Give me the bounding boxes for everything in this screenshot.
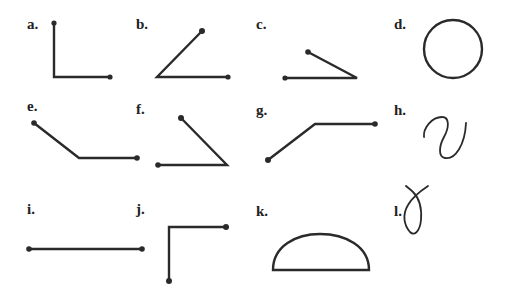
shape-a-right-angle: [51, 20, 112, 79]
label-g: g.: [256, 102, 268, 118]
shape-g-obtuse-angle: [265, 121, 378, 163]
label-i: i.: [27, 201, 35, 217]
shape-e-obtuse-angle: [31, 120, 140, 161]
label-b: b.: [136, 16, 148, 32]
label-e: e.: [27, 98, 38, 114]
label-j: j.: [135, 201, 145, 217]
shape-j-right-angle: [166, 224, 229, 284]
shapes-figure: a. b. c. d. e. f. g. h. i. j. k. l.: [0, 0, 506, 301]
shape-h-s-curve: [424, 117, 466, 158]
label-l: l.: [394, 203, 402, 219]
label-f: f.: [136, 101, 145, 117]
shape-i-straight-line: [26, 246, 145, 252]
label-c: c.: [256, 16, 267, 32]
label-h: h.: [394, 102, 406, 118]
shape-c-narrow-angle: [282, 49, 357, 80]
shape-d-circle: [424, 20, 482, 78]
shape-l-loop: [404, 186, 428, 234]
label-d: d.: [394, 16, 406, 32]
shape-b-acute-angle: [157, 28, 231, 80]
label-k: k.: [256, 203, 268, 219]
shape-k-semicircle: [273, 234, 369, 270]
shape-f-acute-angle: [155, 115, 227, 168]
label-a: a.: [27, 16, 39, 32]
